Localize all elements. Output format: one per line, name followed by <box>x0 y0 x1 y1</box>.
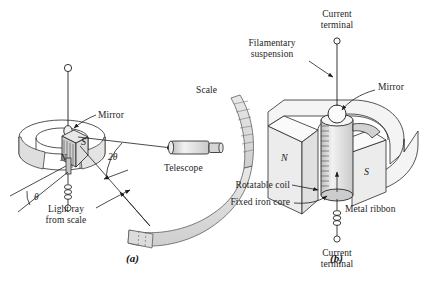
label-angle-theta: θ <box>34 192 39 202</box>
label-light-ray-from-scale: Light ray from scale <box>35 204 97 225</box>
current-terminal-bottom-b <box>334 236 340 242</box>
telescope <box>168 141 223 154</box>
label-pole-s-a: S <box>81 136 86 147</box>
label-angle-2theta: 2θ <box>108 152 117 162</box>
label-fixed-iron-core: Fixed iron core <box>208 197 290 208</box>
label-current-terminal-top: Current terminal <box>308 9 366 30</box>
label-metal-ribbon: Metal ribbon <box>345 204 396 215</box>
label-filamentary-suspension: Filamentary suspension <box>236 38 308 59</box>
current-terminal-top-a <box>64 64 71 71</box>
panel-label-b: (b) <box>330 252 343 264</box>
label-telescope: Telescope <box>164 163 203 174</box>
label-mirror-b: Mirror <box>378 82 404 93</box>
label-pole-n-a: N <box>60 152 67 163</box>
label-rotatable-coil: Rotatable coil <box>212 180 290 191</box>
label-scale: Scale <box>196 85 217 96</box>
mirror-b <box>328 105 346 123</box>
current-terminal-top-b <box>334 38 340 44</box>
label-mirror-a: Mirror <box>98 110 124 121</box>
panel-label-a: (a) <box>126 252 139 264</box>
label-pole-s-b: S <box>364 166 369 177</box>
label-pole-n-b: N <box>281 152 288 163</box>
galvanometer-figure <box>0 0 427 285</box>
